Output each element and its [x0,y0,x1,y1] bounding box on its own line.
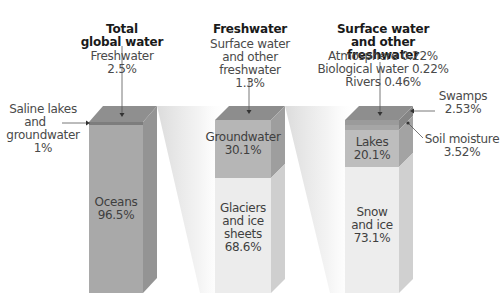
column-1-title: Total global water [80,23,164,49]
column-2-title: Freshwater [200,23,300,36]
column-1-side-face [143,106,157,293]
segment-label-snow-ice: Snow and ice 73.1% [345,206,399,245]
segment-label-oceans: Oceans 96.5% [89,196,143,222]
title-line: global water [80,36,164,49]
freshwater-callout: Freshwater 2.5% [80,50,164,76]
segment-value: 20.1% [345,149,399,162]
column-3-side-snow [399,153,413,293]
segment-label-groundwater: Groundwater 30.1% [205,131,281,157]
segment-value: 30.1% [205,144,281,157]
segment-value: 96.5% [89,209,143,222]
soil-moisture-callout: Soil moisture 3.52% [420,133,503,159]
column-2-side-lower [271,164,285,293]
callout-value: 2.53% [432,103,494,116]
callout-line: Rivers 0.46% [313,76,453,89]
minor-stores-callout: Atmosphere 0.22% Biological water 0.22% … [313,50,453,89]
title-line: Freshwater [200,23,300,36]
segment-soil-moisture [345,125,399,130]
segment-value: 68.6% [215,241,271,254]
callout-value: 1.3% [195,77,305,90]
segment-label-lakes: Lakes 20.1% [345,136,399,162]
callout-value: 1% [4,142,82,155]
swamps-callout: Swamps 2.53% [432,90,494,116]
segment-value: 73.1% [345,232,399,245]
surface-water-callout: Surface water and other freshwater 1.3% [195,38,305,90]
callout-value: 3.52% [420,146,503,159]
callout-value: 2.5% [80,63,164,76]
segment-label-glaciers: Glaciers and ice sheets 68.6% [215,202,271,254]
segment-swamps [345,120,399,125]
saline-callout: Saline lakes and groundwater 1% [4,103,82,155]
segment-saline-band [89,122,143,125]
